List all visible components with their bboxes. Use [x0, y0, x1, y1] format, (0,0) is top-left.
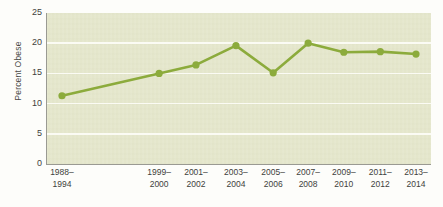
y-tick-label: 10: [20, 99, 42, 108]
data-point-marker: 1999–2000: 15: [156, 70, 163, 77]
x-tick-label: 2013– 2014: [394, 167, 438, 190]
series-line: [62, 43, 416, 96]
data-point-marker: 2007–2008: 20: [305, 40, 312, 47]
x-tick-label: 2001– 2002: [174, 167, 218, 190]
data-point-marker: 2001–2002: 16.4: [192, 61, 199, 68]
x-axis-line: [46, 164, 431, 165]
x-tick-label: 1988– 1994: [40, 167, 84, 190]
y-tick-label: 15: [20, 68, 42, 77]
y-tick-label: 20: [20, 38, 42, 47]
y-axis-tick-labels: 0510152025: [18, 0, 42, 207]
x-axis-tick-labels: 1988– 19941999– 20002001– 20022003– 2004…: [47, 167, 431, 205]
data-point-marker: 1988–1994: 11.3: [58, 92, 65, 99]
y-tick-label: 25: [20, 8, 42, 17]
data-point-marker: 2003–2004: 19.6: [232, 42, 239, 49]
data-series-line: 1988–1994: 11.31999–2000: 152001–2002: 1…: [47, 13, 431, 164]
obesity-trend-line-chart: Percent Obese 0510152025 1988–1994: 11.3…: [0, 0, 443, 207]
data-point-marker: 2005–2006: 15.1: [270, 69, 277, 76]
y-tick-label: 0: [20, 159, 42, 168]
y-tick-label: 5: [20, 129, 42, 138]
data-point-marker: 2009–2010: 18.5: [340, 49, 347, 56]
data-point-marker: 2011–2012: 18.6: [377, 48, 384, 55]
data-point-marker: 2013–2014: 18.2: [412, 50, 419, 57]
plot-area: 1988–1994: 11.31999–2000: 152001–2002: 1…: [47, 13, 431, 164]
